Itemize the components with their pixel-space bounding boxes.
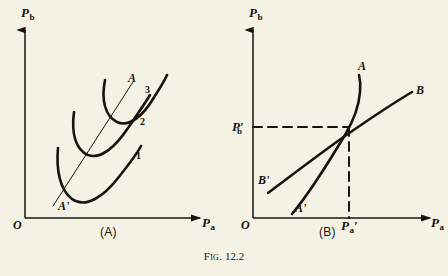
panel-b-x-axis-label: Pa — [431, 216, 444, 232]
figure-caption: Fig. 12.2 — [0, 250, 448, 262]
panel-a-origin-label: O — [13, 219, 22, 231]
panel-a-curve-2 — [73, 95, 150, 156]
panel-a-y-axis-label: Pb — [21, 6, 34, 22]
panel-b-label-B-prime: B' — [258, 174, 269, 186]
panel-a-caption: (A) — [100, 226, 117, 238]
panel-b-y-axis-label: Pb — [249, 6, 262, 22]
panel-b-caption: (B) — [319, 226, 336, 238]
panel-a-locus-line-AA — [53, 82, 133, 206]
panel-b-curve-A — [292, 75, 360, 214]
panel-b-y-axis-subscript: b — [257, 12, 262, 22]
panel-b-equilibrium-price-a-prime: ′ — [354, 218, 358, 233]
panel-a-label-curve-1: 1 — [136, 151, 141, 161]
panel-b-label-A-prime: A' — [295, 202, 306, 214]
panel-a-x-axis-label: Pa — [202, 216, 215, 232]
panel-b-equilibrium-price-a-label: Pa′ — [341, 219, 358, 235]
panel-b-curves — [253, 75, 412, 218]
panel-b-label-A: A — [358, 60, 366, 72]
panel-b-origin-label: O — [241, 219, 250, 231]
figure-container: Pb Pa O A A' 1 2 3 (A) Pb Pa O P′b Pa′ A… — [0, 0, 448, 276]
panel-b-x-axis-subscript: a — [439, 222, 444, 232]
panel-b-equilibrium-price-b-subscript: b — [237, 127, 242, 136]
figure-caption-number: 12.2 — [225, 250, 244, 262]
panel-b-axes — [253, 30, 430, 218]
figure-caption-prefix: Fig. — [204, 250, 223, 262]
panel-a-label-A-prime: A' — [58, 200, 69, 212]
panel-a-axes — [25, 30, 200, 218]
panel-b-label-B: B — [416, 84, 424, 96]
panel-a-x-axis-subscript: a — [210, 222, 215, 232]
panel-a-y-axis-subscript: b — [29, 12, 34, 22]
panel-a-label-curve-3: 3 — [145, 85, 150, 95]
panel-a-label-A: A — [128, 72, 136, 84]
panel-a-label-curve-2: 2 — [140, 117, 145, 127]
panel-b-equilibrium-price-b-label: P′b — [232, 118, 244, 134]
figure-drawing — [0, 0, 448, 276]
